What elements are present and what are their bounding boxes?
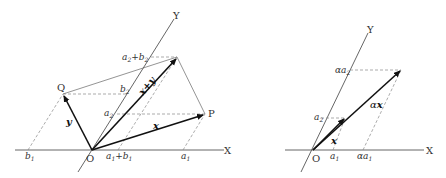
- point-q-label: Q: [57, 82, 65, 93]
- vector-x-label: x: [330, 135, 338, 146]
- x-axis-label: X: [426, 145, 434, 156]
- vector-alpha-x-label: αx: [370, 99, 384, 110]
- left-diagram: X Y O P Q x y x+y b1 a1+b1 a1 a2 b2 a2+b…: [15, 10, 232, 172]
- tick-a1-plus-b1: a1+b1: [106, 151, 132, 162]
- parallelogram-side-p: [177, 57, 205, 114]
- point-p-label: P: [208, 108, 215, 119]
- origin-label: O: [312, 153, 320, 164]
- vector-alpha-x: [313, 71, 400, 150]
- x-axis-label: X: [224, 145, 232, 156]
- tick-b1: b1: [25, 151, 35, 162]
- tick-a1: a1: [330, 151, 339, 162]
- right-diagram: X Y O x αx a1 αa1 a2 αa2: [285, 24, 434, 172]
- vector-x: [313, 119, 344, 150]
- projection-lines: [28, 57, 205, 150]
- tick-alpha-a1: αa1: [357, 151, 372, 162]
- tick-a2-plus-b2: a2+b2: [122, 52, 149, 63]
- tick-a2: a2: [314, 112, 323, 123]
- tick-alpha-a2: αa2: [335, 65, 350, 76]
- vector-y-label: y: [65, 116, 73, 127]
- vector-sum-label: x+y: [135, 74, 158, 98]
- vector-x-label: x: [152, 120, 160, 131]
- tick-a1: a1: [181, 151, 190, 162]
- tick-a2: a2: [104, 108, 113, 119]
- origin-label: O: [86, 153, 94, 164]
- y-axis-label: Y: [366, 24, 374, 35]
- vector-addition-diagram: X Y O P Q x y x+y b1 a1+b1 a1 a2 b2 a2+b…: [0, 0, 446, 178]
- tick-b2: b2: [120, 84, 130, 95]
- y-axis-label: Y: [172, 10, 180, 21]
